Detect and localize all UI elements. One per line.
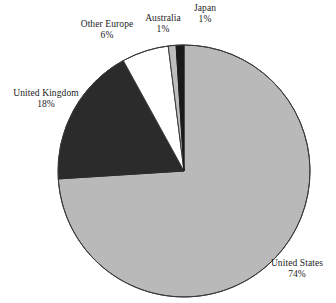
pie-label-other-europe: Other Europe 6%	[74, 19, 140, 41]
pie-label-united-kingdom: United Kingdom 18%	[4, 88, 88, 110]
pie-label-australia: Australia 1%	[136, 13, 190, 35]
pie-label-united-kingdom-value: 18%	[4, 99, 88, 110]
pie-chart-screen: Japan 1% Australia 1% Other Europe 6% Un…	[0, 0, 336, 303]
pie-label-other-europe-value: 6%	[74, 30, 140, 41]
pie-label-other-europe-name: Other Europe	[74, 19, 140, 30]
pie-label-australia-name: Australia	[136, 13, 190, 24]
pie-label-australia-value: 1%	[136, 24, 190, 35]
pie-label-united-states-name: United States	[262, 258, 332, 269]
pie-label-united-kingdom-name: United Kingdom	[4, 88, 88, 99]
pie-label-united-states-value: 74%	[262, 269, 332, 280]
pie-label-united-states: United States 74%	[262, 258, 332, 280]
